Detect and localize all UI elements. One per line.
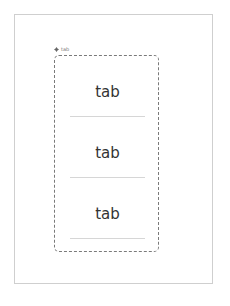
component-name: tab [61, 46, 69, 52]
tab-item-1[interactable]: tab [70, 56, 145, 117]
tab-item-3[interactable]: tab [70, 178, 145, 239]
tab-label: tab [95, 83, 120, 101]
canvas: tab tab tab tab [0, 0, 230, 306]
tab-divider [70, 238, 145, 239]
component-label[interactable]: tab [54, 46, 69, 52]
tab-label: tab [95, 144, 120, 162]
tab-list[interactable]: tab tab tab [54, 55, 159, 252]
component-diamond-icon [54, 47, 59, 52]
tab-item-2[interactable]: tab [70, 117, 145, 178]
tab-label: tab [95, 205, 120, 223]
